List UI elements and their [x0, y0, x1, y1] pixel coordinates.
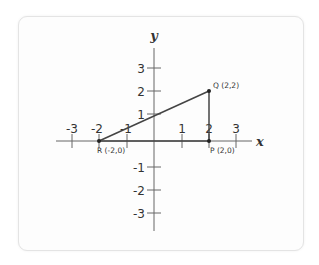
x-tick-label: 3 — [232, 122, 240, 136]
point-Q — [207, 89, 211, 93]
y-tick-label: -1 — [133, 161, 145, 175]
y-tick-label: 2 — [137, 85, 145, 99]
point-P — [207, 139, 211, 143]
x-tick-label: -2 — [91, 122, 103, 136]
point-label-P: P (2,0) — [210, 146, 235, 155]
y-tick-label: -2 — [133, 184, 145, 198]
point-label-R: R (-2,0) — [97, 146, 125, 155]
x-axis-label: x — [255, 134, 264, 149]
x-tick-label: 1 — [178, 122, 186, 136]
y-tick-label: 3 — [137, 62, 145, 76]
point-label-Q: Q (2,2) — [213, 81, 239, 90]
coordinate-plane: -3 -2 -1 1 2 3 3 2 1 -1 -2 -3 x y Q (2,2… — [0, 0, 319, 265]
y-tick-label: -3 — [133, 207, 145, 221]
y-axis-label: y — [149, 28, 159, 43]
point-R — [97, 139, 101, 143]
x-tick-label: -3 — [66, 122, 78, 136]
